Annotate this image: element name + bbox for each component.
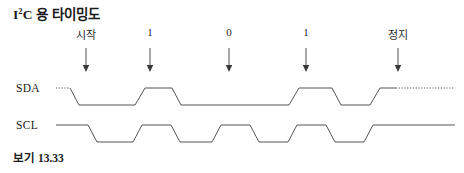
sda-waveform-trace: [56, 88, 455, 105]
annotation-label: 0: [226, 26, 232, 38]
figure-caption: 보기 13.33: [13, 149, 64, 165]
annotation-arrow-head: [226, 65, 233, 72]
annotation-arrow-group: [83, 48, 402, 72]
annotation-label: 1: [303, 26, 309, 38]
i2c-timing-figure: I2C 용 타이밍도 시작101정지 SDA SCL 보기 13.33: [0, 0, 464, 173]
sda-signal-line: [70, 88, 396, 105]
annotation-label: 시작: [76, 26, 96, 42]
annotation-arrow-head: [395, 65, 402, 72]
annotation-arrow-head: [303, 65, 310, 72]
scl-waveform-trace: [56, 125, 455, 142]
signal-label-scl: SCL: [16, 119, 38, 131]
annotation-arrow-head: [83, 65, 90, 72]
annotation-label: 1: [147, 26, 153, 38]
annotation-arrow-head: [147, 65, 154, 72]
scl-signal-line: [56, 125, 455, 142]
annotation-label: 정지: [388, 26, 408, 42]
signal-label-sda: SDA: [16, 82, 40, 94]
